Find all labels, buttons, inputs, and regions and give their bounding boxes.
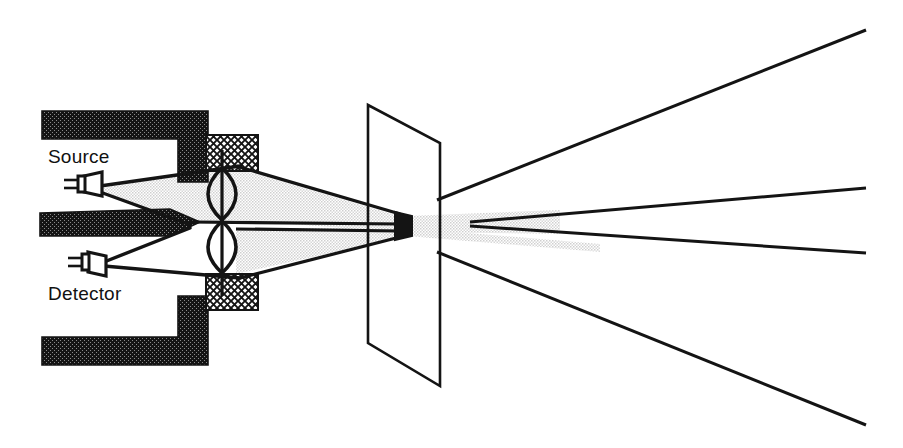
schematic-diagram: Source Detector xyxy=(0,0,903,448)
lower-mount-block xyxy=(206,274,258,310)
focal-spot xyxy=(395,212,412,240)
axis-center xyxy=(190,222,400,224)
detector-label: Detector xyxy=(48,283,122,304)
figure-root: Source Detector xyxy=(0,0,903,448)
source-label: Source xyxy=(48,146,109,167)
detector-receiver-body xyxy=(88,252,106,276)
axis-lower-inner xyxy=(236,229,400,231)
detector-receiver-ferrule xyxy=(82,254,89,270)
source-emitter-ferrule xyxy=(78,176,85,192)
source-emitter-body xyxy=(84,172,102,196)
